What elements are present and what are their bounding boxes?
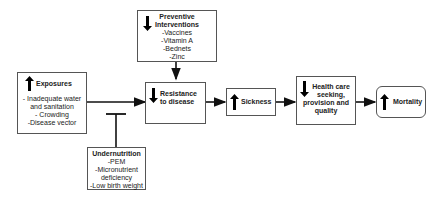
exposures-box: Exposures - Inadequate water and sanitat… (17, 72, 87, 134)
preventive-item: -Zinc (138, 53, 216, 61)
up-arrow-icon (25, 76, 34, 91)
exposures-item: -Disease vector (18, 119, 86, 127)
resistance-box: Resistance to disease (145, 82, 206, 124)
up-arrow-icon (380, 94, 389, 110)
healthcare-title: quality (297, 107, 355, 115)
up-arrow-icon (230, 94, 239, 110)
undernutrition-box: Undernutrition -PEM -Micronutrient defic… (87, 147, 146, 190)
sickness-box: Sickness (226, 88, 276, 116)
exposures-title: Exposures (36, 80, 72, 88)
resistance-title: to disease (160, 98, 194, 106)
mortality-box: Mortality (376, 86, 426, 118)
healthcare-box: Health care seeking, provision and quali… (296, 76, 356, 125)
down-arrow-icon (149, 88, 158, 103)
undernutrition-item: -Low birth weight (88, 182, 145, 190)
sickness-title: Sickness (241, 98, 271, 106)
preventive-interventions-box: Preventive Interventions -Vaccines -Vita… (137, 10, 217, 62)
mortality-title: Mortality (393, 98, 422, 106)
